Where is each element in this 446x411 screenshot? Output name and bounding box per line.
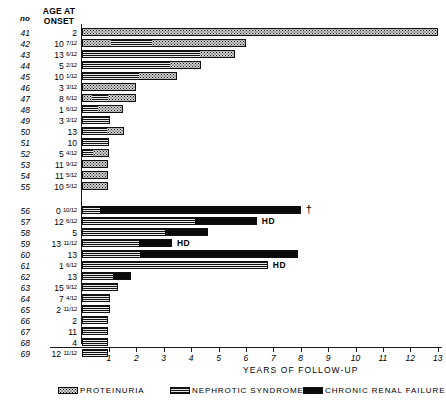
- bar-segment-nephrotic: [83, 106, 99, 112]
- follow-up-chart: no AGE AT ONSET 4124210 7/124313 6/12445…: [0, 0, 446, 411]
- patient-timeline-bar: [82, 61, 201, 69]
- patient-timeline-bar: [82, 206, 301, 214]
- row-patient-number: 67: [14, 327, 30, 337]
- row-age-at-onset: 3 3/12: [33, 83, 77, 93]
- patient-timeline-bar: [82, 116, 111, 124]
- patient-timeline-bar: [82, 228, 208, 236]
- row-patient-number: 43: [14, 50, 30, 60]
- bar-segment-nephrotic: [83, 128, 108, 134]
- row-patient-number: 62: [14, 272, 30, 282]
- row-age-at-onset: 3 3/12: [33, 116, 77, 126]
- table-row: 560 10/12†: [0, 205, 446, 215]
- row-patient-number: 69: [14, 349, 30, 359]
- legend-item-crf: CHRONIC RENAL FAILURE: [303, 386, 445, 395]
- row-age-at-onset: 11 5/12: [33, 171, 77, 181]
- bar-segment-proteinuria: [152, 40, 245, 46]
- column-header-no: no: [20, 14, 30, 23]
- row-age-at-onset: 2 11/12: [33, 305, 77, 315]
- x-tick-label-5: 5: [216, 353, 221, 363]
- patient-timeline-bar: [82, 316, 108, 324]
- patient-timeline-bar: [82, 349, 108, 357]
- row-patient-number: 51: [14, 138, 30, 148]
- table-row: 5510 5/12: [0, 181, 446, 191]
- hemodialysis-marker: HD: [273, 260, 286, 270]
- row-patient-number: 63: [14, 283, 30, 293]
- bar-segment-nephrotic: [83, 339, 107, 345]
- table-row: 585: [0, 227, 446, 237]
- bar-segment-crf: [140, 251, 297, 257]
- bar-segment-nephrotic: [83, 251, 140, 257]
- table-row: 4313 6/12: [0, 49, 446, 59]
- row-patient-number: 58: [14, 228, 30, 238]
- patient-timeline-bar: [82, 272, 131, 280]
- patient-timeline-bar: [82, 294, 111, 302]
- patient-timeline-bar: [82, 160, 108, 168]
- row-age-at-onset: 10 7/12: [33, 39, 77, 49]
- row-patient-number: 60: [14, 250, 30, 260]
- x-tick-label-12: 12: [406, 353, 415, 363]
- row-patient-number: 56: [14, 206, 30, 216]
- x-tick-4: [191, 347, 192, 352]
- bar-segment-nephrotic: [83, 262, 267, 268]
- table-row: 662: [0, 315, 446, 325]
- row-patient-number: 53: [14, 160, 30, 170]
- row-age-at-onset: 13: [33, 127, 77, 137]
- row-patient-number: 68: [14, 338, 30, 348]
- patient-timeline-bar: [82, 39, 246, 47]
- table-row: 6013: [0, 249, 446, 259]
- x-tick-label-9: 9: [326, 353, 331, 363]
- table-row: 611 6/12HD: [0, 260, 446, 270]
- x-tick-label-11: 11: [378, 353, 387, 363]
- row-patient-number: 65: [14, 305, 30, 315]
- row-age-at-onset: 13 6/12: [33, 50, 77, 60]
- patient-timeline-bar: [82, 50, 235, 58]
- patient-timeline-bar: [82, 239, 172, 247]
- bar-segment-proteinuria: [139, 73, 177, 79]
- row-patient-number: 57: [14, 217, 30, 227]
- patient-timeline-bar: [82, 105, 123, 113]
- row-patient-number: 49: [14, 116, 30, 126]
- x-tick-1: [109, 347, 110, 352]
- bar-segment-proteinuria: [200, 51, 234, 57]
- bar-segment-proteinuria: [107, 128, 123, 134]
- x-tick-8: [301, 347, 302, 352]
- row-age-at-onset: 0 10/12: [33, 206, 77, 216]
- bar-segment-crf: [195, 218, 256, 224]
- legend-swatch-nephrotic: [170, 387, 190, 394]
- bar-segment-nephrotic: [83, 229, 165, 235]
- bar-segment-proteinuria: [83, 95, 92, 101]
- bar-segment-nephrotic: [83, 317, 107, 323]
- row-age-at-onset: 4: [33, 338, 77, 348]
- hemodialysis-marker: HD: [177, 238, 190, 248]
- table-row: 6213: [0, 271, 446, 281]
- table-row: 478 6/12: [0, 93, 446, 103]
- bar-segment-proteinuria: [83, 84, 136, 90]
- bar-segment-nephrotic: [83, 240, 139, 246]
- chart-legend: PROTEINURIANEPHROTIC SYNDROMECHRONIC REN…: [0, 386, 446, 400]
- x-tick-label-10: 10: [351, 353, 360, 363]
- row-patient-number: 61: [14, 261, 30, 271]
- row-patient-number: 55: [14, 182, 30, 192]
- patient-timeline-bar: [82, 338, 108, 346]
- bar-segment-crf: [139, 240, 171, 246]
- patient-timeline-bar: [82, 127, 124, 135]
- hemodialysis-marker: HD: [262, 216, 275, 226]
- patient-timeline-bar: [82, 72, 178, 80]
- column-header-age-line2: ONSET: [33, 17, 85, 27]
- x-tick-label-4: 4: [189, 353, 194, 363]
- row-patient-number: 52: [14, 149, 30, 159]
- bar-segment-proteinuria: [83, 161, 107, 167]
- x-tick-12: [410, 347, 411, 352]
- row-age-at-onset: 10 5/12: [33, 182, 77, 192]
- x-tick-label-1: 1: [107, 353, 112, 363]
- table-row: 647 4/12: [0, 293, 446, 303]
- row-patient-number: 54: [14, 171, 30, 181]
- legend-item-nephrotic: NEPHROTIC SYNDROME: [170, 386, 304, 395]
- x-tick-10: [356, 347, 357, 352]
- x-tick-13: [438, 347, 439, 352]
- row-patient-number: 50: [14, 127, 30, 137]
- row-age-at-onset: 11 9/12: [33, 160, 77, 170]
- x-tick-11: [383, 347, 384, 352]
- table-row: 652 11/12: [0, 304, 446, 314]
- row-age-at-onset: 2: [33, 316, 77, 326]
